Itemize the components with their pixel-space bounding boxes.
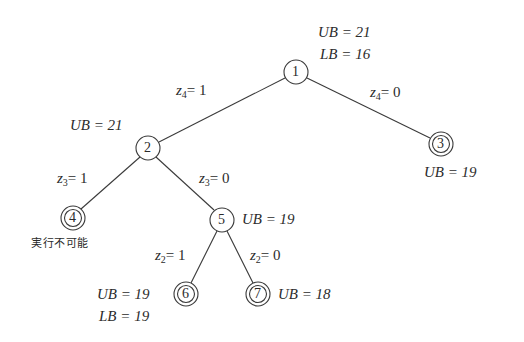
node-1-number: 1: [292, 64, 299, 80]
node-1-upper-bound: UB = 21: [318, 24, 371, 40]
node-5-upper-bound: UB = 19: [242, 211, 295, 227]
node-6-number: 6: [182, 286, 189, 302]
node-7-number: 7: [254, 286, 261, 302]
edge-2-4-label: z3= 1: [57, 170, 88, 186]
edge-5-6: [191, 231, 217, 283]
node-2-number: 2: [144, 140, 151, 156]
edge-5-7-label: z2= 0: [250, 247, 281, 263]
node-4-number: 4: [69, 210, 76, 226]
node-1-lower-bound: LB = 16: [320, 46, 370, 62]
node-4-infeasible-note: 実行不可能: [31, 236, 89, 252]
node-5-number: 5: [218, 212, 225, 228]
edge-2-5-label: z3= 0: [199, 170, 230, 186]
node-3-upper-bound: UB = 19: [424, 164, 477, 180]
edge-5-6-label: z2= 1: [155, 247, 186, 263]
node-3-number: 3: [437, 136, 444, 152]
edge-1-3: [307, 78, 430, 138]
node-6-upper-bound: UB = 19: [97, 286, 150, 302]
node-7-upper-bound: UB = 18: [278, 286, 331, 302]
edge-1-3-label: z4= 0: [370, 84, 401, 100]
edge-2-4: [81, 157, 140, 209]
edge-1-2-label: z4= 1: [176, 82, 207, 98]
node-2-upper-bound: UB = 21: [70, 117, 123, 133]
node-6-lower-bound: LB = 19: [99, 308, 149, 324]
